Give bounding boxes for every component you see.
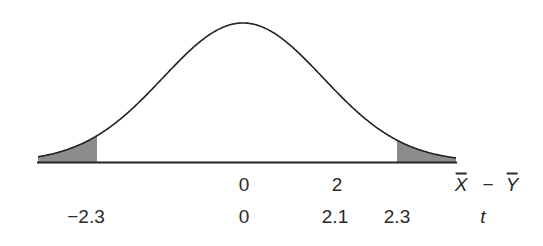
density-curve	[38, 23, 456, 158]
t-tick-neg-2-3: −2.3	[67, 207, 105, 226]
t-tick-0: 0	[239, 207, 250, 226]
ybar-symbol: Y	[506, 175, 519, 194]
xbar-symbol: X	[455, 175, 468, 194]
right-tail-shaded-region	[397, 140, 456, 162]
t-tick-2-3: 2.3	[384, 207, 410, 226]
axis-label-ybar: Y	[506, 175, 519, 194]
t-tick-2-1: 2.1	[322, 207, 348, 226]
axis-label-minus: −	[482, 175, 493, 194]
xbar-ybar-tick-2: 2	[332, 175, 343, 194]
distribution-figure: 0 2 X − Y −2.3 0 2.1 2.3 t	[0, 0, 543, 246]
xbar-ybar-tick-0: 0	[239, 175, 250, 194]
axis-label-t: t	[480, 207, 485, 226]
axis-label-xbar: X	[455, 175, 468, 194]
